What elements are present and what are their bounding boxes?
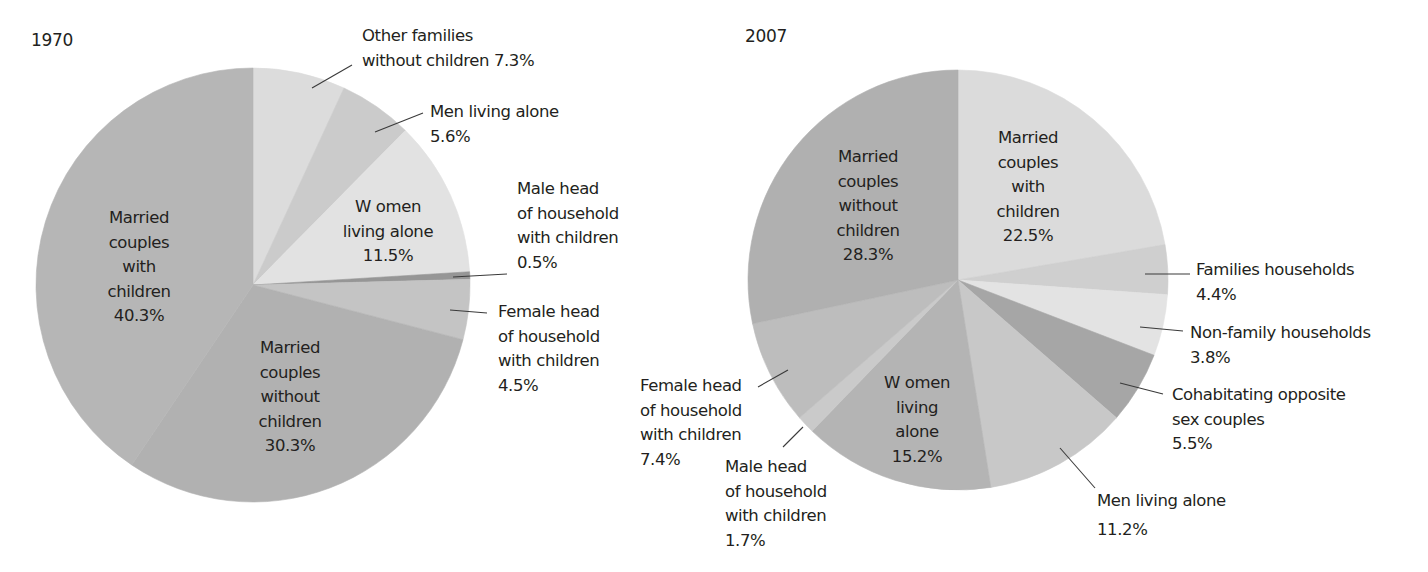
label-1970-female-head: Female head of household with children 4… — [498, 300, 600, 398]
pie-1970 — [36, 68, 470, 502]
year-label-1970: 1970 — [31, 30, 73, 50]
label-1970-married-with-children: Married couples with children 40.3% — [107, 206, 170, 329]
label-1970-other-families: Other families without children 7.3% — [362, 24, 534, 73]
label-2007-married-with-children: Married couples with children 22.5% — [996, 126, 1059, 249]
label-1970-men-living-alone: Men living alone 5.6% — [430, 100, 559, 149]
leader-line — [783, 427, 803, 447]
pie-slice — [958, 70, 1165, 280]
year-label-2007: 2007 — [745, 26, 787, 46]
label-2007-female-head: Female head of household with children 7… — [640, 374, 742, 472]
label-2007-men-living-alone: Men living alone 11.2% — [1097, 486, 1226, 544]
label-2007-cohabitating-couples: Cohabitating opposite sex couples 5.5% — [1172, 383, 1346, 457]
label-1970-married-without-children: Married couples without children 30.3% — [258, 336, 321, 459]
label-2007-families-households: Families households 4.4% — [1196, 258, 1354, 307]
label-2007-married-without-children: Married couples without children 28.3% — [836, 145, 899, 268]
label-2007-women-living-alone: W omen living alone 15.2% — [884, 371, 950, 469]
label-1970-male-head: Male head of household with children 0.5… — [517, 177, 619, 275]
pie-2007 — [748, 70, 1168, 490]
label-1970-women-living-alone: W omen living alone 11.5% — [343, 195, 433, 269]
leader-line — [1060, 448, 1095, 488]
label-2007-non-family-households: Non-family households 3.8% — [1190, 321, 1371, 370]
